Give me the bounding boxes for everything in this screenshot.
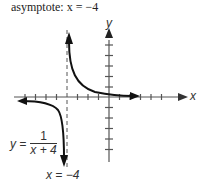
equation-numerator: 1: [30, 130, 56, 144]
x-axis-arrow-icon: [178, 93, 188, 101]
asymptote-label: x = −4: [46, 168, 79, 182]
y-axis-label: y: [106, 16, 112, 30]
equation-lhs: y =: [10, 137, 26, 151]
curve-right-arrow-up-icon: [65, 32, 73, 44]
graph: [0, 0, 200, 186]
curve-right-branch: [69, 42, 132, 96]
equation-denominator: x + 4: [30, 144, 56, 157]
curve-left-arrow-left-icon: [17, 97, 27, 105]
equation-label: y = 1 x + 4: [10, 130, 57, 157]
x-axis-label: x: [190, 89, 196, 103]
curve-right-arrow-right-icon: [130, 92, 140, 100]
x-axis: [14, 94, 178, 100]
y-axis: [105, 40, 113, 162]
